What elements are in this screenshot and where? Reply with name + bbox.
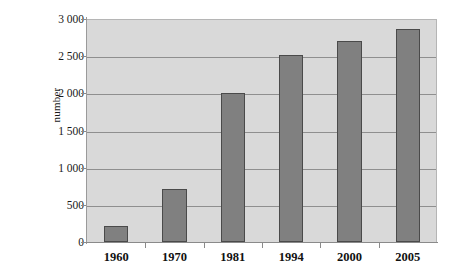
x-axis-tick-label: 2000	[337, 250, 362, 265]
y-axis-tick-label: 2 000	[40, 87, 84, 99]
bar	[396, 29, 421, 242]
y-axis-tick-labels: 05001 0001 5002 0002 5003 000	[40, 19, 84, 242]
bar-chart: number 05001 0001 5002 0002 5003 000 196…	[0, 0, 460, 278]
plot-area	[87, 19, 437, 242]
x-axis-tick-mark	[379, 243, 380, 248]
x-axis-tick-mark	[320, 243, 321, 248]
x-axis-tick-label: 1981	[220, 250, 245, 265]
x-axis-tick-label: 1970	[162, 250, 187, 265]
bar	[104, 226, 129, 242]
x-axis-tick-mark	[204, 243, 205, 248]
bar	[279, 55, 304, 242]
x-axis-tick-mark	[145, 243, 146, 248]
bar	[221, 93, 246, 242]
y-axis-tick-label: 1 000	[40, 162, 84, 174]
y-axis-tick-label: 500	[40, 199, 84, 211]
y-axis-tick-label: 0	[40, 236, 84, 248]
y-axis-tick-label: 3 000	[40, 13, 84, 25]
x-axis-tick-label: 2005	[395, 250, 420, 265]
x-axis-tick-label: 1960	[104, 250, 129, 265]
x-axis-tick-label: 1994	[279, 250, 304, 265]
x-axis-tick-labels: 196019701981199420002005	[87, 250, 437, 270]
y-axis-tick-label: 2 500	[40, 50, 84, 62]
y-axis-tick-label: 1 500	[40, 125, 84, 137]
bar	[337, 41, 362, 242]
x-axis-tick-mark	[262, 243, 263, 248]
bars-group	[87, 20, 436, 242]
bar	[162, 189, 187, 242]
x-axis-tick-marks	[87, 243, 437, 248]
